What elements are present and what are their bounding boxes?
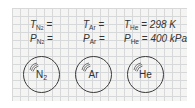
he-container: He: [127, 56, 164, 93]
he-pressure-value: 400 kPa: [150, 33, 187, 44]
n2-temperature-subscript: N2: [36, 24, 43, 31]
ar-pressure-label: PAr =: [83, 33, 105, 44]
n2-pressure-subscript: N2: [37, 38, 44, 45]
ar-gas-label: Ar: [76, 69, 111, 80]
n2-gas-label: N2: [24, 69, 59, 80]
ar-container: Ar: [75, 56, 112, 93]
he-gas-label: He: [128, 69, 163, 80]
n2-container: N2: [23, 56, 60, 93]
ar-temperature-label: TAr =: [83, 19, 104, 30]
n2-temperature-label: TN2 =: [30, 19, 52, 30]
he-temperature-value: 298 K: [150, 19, 176, 30]
he-pressure-label: PHe = 400 kPa: [124, 33, 187, 44]
he-temperature-label: THe = 298 K: [124, 19, 176, 30]
n2-pressure-label: PN2 =: [30, 33, 53, 44]
